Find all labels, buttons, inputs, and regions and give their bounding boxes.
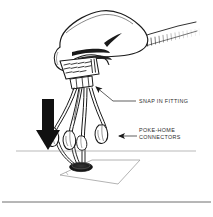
technical-illustration-figure: SNAP IN FITTING POKE-HOME CONNECTORS [0,0,213,217]
figure-canvas: SNAP IN FITTING POKE-HOME CONNECTORS [0,0,213,217]
poke-home-label-line1: POKE-HOME [139,127,175,133]
snap-in-fitting-label: SNAP IN FITTING [139,98,188,104]
poke-home-label-line2: CONNECTORS [139,134,181,140]
